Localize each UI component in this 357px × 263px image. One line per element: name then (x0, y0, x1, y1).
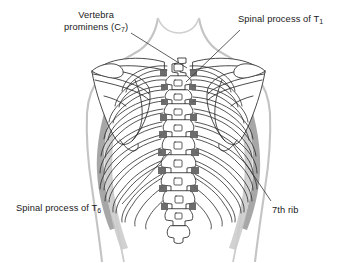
spinous-t3 (174, 109, 182, 115)
label-vertebra-prominens-line1: Vertebra (78, 10, 114, 20)
label-7th-rib-text: 7th rib (272, 205, 299, 215)
label-vertebra-prominens-line2-prefix: prominens (C (64, 22, 121, 32)
spinous-t9 (175, 213, 182, 219)
rib-right-10 (195, 174, 235, 222)
spinous-t5 (174, 142, 182, 149)
label-spinal-process-t1-prefix: Spinal process of T (238, 14, 319, 24)
label-vertebra-prominens-subscript: 7 (121, 26, 125, 33)
label-spinal-process-t1-subscript: 1 (319, 18, 323, 25)
label-vertebra-prominens-line2-suffix: ) (125, 22, 128, 32)
label-spinal-process-t1: Spinal process of T1 (238, 14, 323, 26)
label-spinal-process-t6-prefix: Spinal process of T (16, 203, 97, 213)
spinous-t8 (175, 196, 183, 203)
vertebral-column (158, 58, 199, 244)
label-vertebra-prominens: Vertebra prominens (C7) (64, 10, 128, 33)
rib-right-11 (194, 187, 222, 226)
label-spinal-process-t6: Spinal process of T6 (16, 203, 101, 215)
vertebra-lumbar-end (167, 226, 190, 244)
rib-left-11 (135, 187, 163, 226)
spinous-t4 (174, 125, 182, 131)
spinous-t2 (174, 94, 182, 100)
anatomy-illustration (0, 0, 357, 263)
label-spinal-process-t6-subscript: 6 (97, 207, 101, 214)
anatomy-figure: Vertebra prominens (C7) Spinal process o… (0, 0, 357, 263)
spinous-t1 (174, 80, 182, 86)
spinous-t7 (174, 178, 182, 185)
neck-contour (158, 18, 199, 33)
spinous-t6 (174, 160, 182, 167)
label-7th-rib: 7th rib (272, 205, 299, 217)
